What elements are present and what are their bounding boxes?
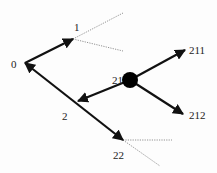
edge-21-211 <box>130 50 185 80</box>
dotted-edge-from-1 <box>73 13 123 39</box>
node-label-21: 21 <box>112 74 123 86</box>
node-label-0: 0 <box>11 58 17 70</box>
node-21-circle <box>122 72 138 88</box>
node-label-211: 211 <box>189 44 205 56</box>
nodes <box>122 72 138 88</box>
dotted-edge-from-22 <box>123 140 160 166</box>
node-label-1: 1 <box>74 21 80 33</box>
edge-21-212 <box>130 80 183 114</box>
node-label-2: 2 <box>62 110 68 122</box>
tree-svg: 0122121121222 <box>0 0 217 173</box>
labels: 0122121121222 <box>11 21 206 161</box>
game-tree-diagram: 0122121121222 <box>0 0 217 173</box>
edge-22-0 <box>25 63 123 140</box>
node-label-212: 212 <box>189 109 206 121</box>
edge-0-1 <box>25 39 73 63</box>
node-label-22: 22 <box>113 149 124 161</box>
dotted-edge-from-1 <box>73 39 123 51</box>
edges <box>25 39 185 140</box>
dotted-edges <box>73 13 172 166</box>
